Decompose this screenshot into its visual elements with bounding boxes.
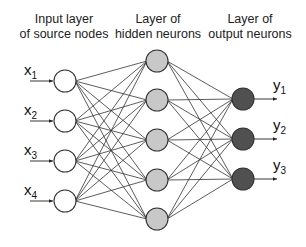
output-neuron: [232, 128, 254, 150]
hidden-neuron: [146, 50, 168, 72]
network-diagram: x1x2x3x4y1y2y3: [0, 0, 306, 247]
connection: [167, 179, 233, 219]
input-neuron: [54, 70, 76, 92]
output-label: y3: [273, 156, 287, 176]
output-neuron: [232, 88, 254, 110]
connection: [75, 61, 147, 121]
connection: [167, 99, 233, 219]
hidden-neuron: [146, 89, 168, 111]
input-neuron: [54, 190, 76, 212]
hidden-neuron: [146, 169, 168, 191]
input-label: x2: [24, 101, 38, 121]
connection: [167, 99, 233, 100]
output-neuron: [232, 168, 254, 190]
input-label: x3: [24, 141, 38, 161]
hidden-neuron: [146, 208, 168, 230]
hidden-neuron: [146, 129, 168, 151]
output-label: y1: [273, 76, 287, 96]
connection: [167, 61, 233, 99]
input-neuron: [54, 110, 76, 132]
connection: [167, 61, 233, 179]
connection: [167, 99, 233, 140]
input-label: x4: [24, 181, 38, 201]
connection: [75, 61, 147, 81]
connection: [75, 61, 147, 161]
input-label: x1: [24, 61, 38, 81]
output-label: y2: [273, 116, 287, 136]
input-neuron: [54, 150, 76, 172]
connection: [75, 100, 147, 201]
